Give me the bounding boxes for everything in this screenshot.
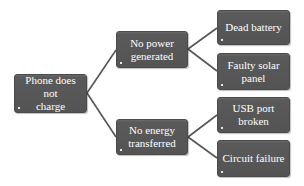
- connector-no-power-to-dead-battery: [188, 28, 217, 49]
- connector-no-power-to-faulty-panel: [188, 49, 217, 71]
- leaf-node-circuit-failure: Circuit failure: [217, 140, 290, 177]
- branch-node-no-power-generated: No power generated: [116, 31, 188, 68]
- root-node-phone-does-not-charge: Phone does not charge: [14, 74, 87, 113]
- leaf-node-faulty-solar-panel: Faulty solar panel: [217, 53, 290, 90]
- branch-node-no-energy-transferred: No energy transferred: [116, 119, 188, 155]
- leaf-node-usb-port-broken: USB port broken: [217, 97, 290, 133]
- connector-root-to-no-energy: [87, 93, 116, 137]
- connector-no-energy-to-usb-port: [188, 115, 217, 137]
- fault-tree-diagram: Phone does not charge No power generated…: [0, 0, 304, 186]
- leaf-node-dead-battery: Dead battery: [217, 10, 290, 45]
- connector-root-to-no-power: [87, 50, 116, 93]
- connector-no-energy-to-circuit: [188, 137, 217, 158]
